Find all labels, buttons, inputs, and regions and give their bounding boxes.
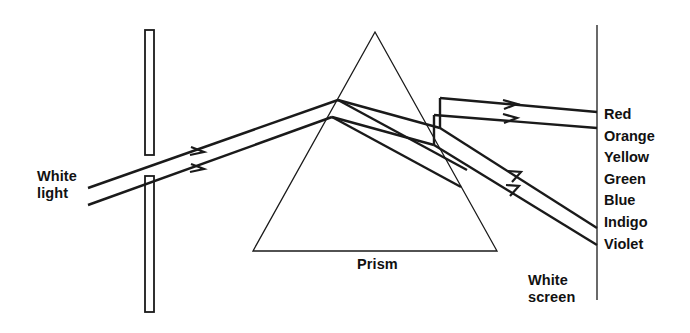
red-exit-edge-upper: [440, 98, 597, 112]
white-light-label: White light: [37, 168, 77, 202]
violet-exit-edge-lower: [434, 145, 597, 245]
red-exit-beam: [434, 98, 597, 128]
spectrum-label-red: Red: [604, 104, 655, 126]
slit-barrier: [145, 30, 154, 312]
spectrum-label-indigo: Indigo: [604, 212, 655, 234]
internal-beams: [332, 100, 467, 187]
white-light-beam: [88, 100, 338, 205]
spectrum-label-violet: Violet: [604, 234, 655, 256]
internal-violet-edge-a: [338, 100, 467, 170]
slit-barrier-lower: [145, 176, 154, 312]
white-beam-upper-edge: [88, 100, 338, 188]
spectrum-label-yellow: Yellow: [604, 147, 655, 169]
exit-face-joins: [434, 98, 440, 145]
diagram-canvas: .thin { fill: none; stroke: #1a1a1a; str…: [0, 0, 690, 333]
spectrum-label-blue: Blue: [604, 190, 655, 212]
slit-barrier-upper: [145, 30, 154, 155]
spectrum-label-green: Green: [604, 169, 655, 191]
white-beam-lower-edge: [88, 117, 332, 205]
spectrum-label-orange: Orange: [604, 126, 655, 148]
spectrum-color-labels: Red Orange Yellow Green Blue Indigo Viol…: [604, 104, 655, 255]
white-screen-label: White screen: [528, 272, 575, 306]
prism-label: Prism: [357, 256, 398, 273]
prism-dispersion-diagram: .thin { fill: none; stroke: #1a1a1a; str…: [0, 0, 690, 333]
violet-exit-edge-upper: [440, 128, 597, 228]
